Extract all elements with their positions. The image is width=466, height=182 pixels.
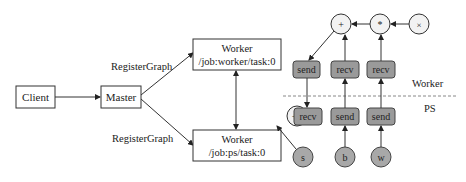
send-op-w-ps-label: send (372, 111, 390, 122)
add-op-symbol: + (338, 19, 344, 30)
var-b: b (335, 147, 355, 167)
recv-op-b-worker: recv (331, 61, 359, 78)
ps-task-job: /job:ps/task:0 (209, 147, 266, 158)
var-w: w (371, 147, 391, 167)
worker-task-job: /job:worker/task:0 (199, 56, 276, 67)
register-graph-top-arrow (141, 53, 193, 95)
send-op-b-ps-label: send (336, 111, 354, 122)
client-label: Client (22, 91, 49, 103)
x-input-symbol: × (416, 20, 421, 30)
ps-region-label: PS (424, 103, 436, 114)
x-input: × (409, 14, 429, 34)
worker-region-label: Worker (412, 78, 444, 89)
add-to-send-arrow (309, 31, 334, 60)
worker-task-node: Worker /job:worker/task:0 (193, 39, 281, 70)
master-node: Master (101, 86, 141, 108)
var-b-label: b (343, 152, 348, 163)
var-s: s (293, 147, 313, 167)
send-op-worker-label: send (297, 64, 315, 75)
worker-task-title: Worker (221, 43, 253, 54)
send-op-w-ps: send (367, 108, 395, 125)
mul-op-symbol: * (378, 19, 383, 30)
var-s-label: s (301, 152, 305, 163)
mul-op: * (370, 14, 390, 34)
var-w-label: w (377, 152, 385, 163)
ps-task-node: Worker /job:ps/task:0 (193, 130, 281, 161)
client-node: Client (16, 86, 55, 108)
send-op-b-ps: send (331, 108, 359, 125)
ps-task-title: Worker (221, 134, 253, 145)
send-op-worker: send (293, 61, 320, 78)
register-graph-bottom-label: RegisterGraph (112, 133, 174, 144)
distributed-graph-diagram: Client Master RegisterGraph RegisterGrap… (0, 0, 466, 182)
recv-op-w-worker-label: recv (372, 64, 389, 75)
recv-op-b-worker-label: recv (336, 64, 353, 75)
master-label: Master (106, 91, 137, 103)
register-graph-top-label: RegisterGraph (111, 61, 173, 72)
recv-op-w-worker: recv (367, 61, 395, 78)
